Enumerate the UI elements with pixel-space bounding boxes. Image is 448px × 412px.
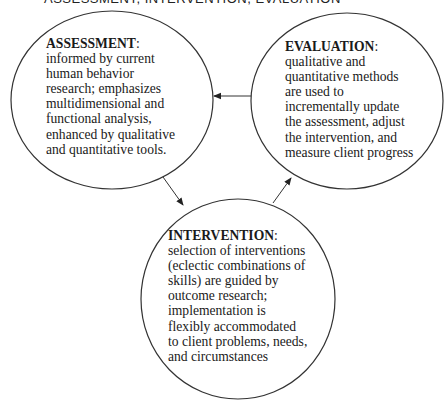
intervention-line: implementation is [168, 303, 307, 318]
assessment-line: and quantitative tools. [46, 142, 175, 157]
intervention-line: flexibly accommodated [168, 319, 307, 334]
intervention-line: skills) are guided by [168, 273, 307, 288]
evaluation-line: measure client progress [285, 145, 413, 160]
evaluation-title: EVALUATION [285, 39, 374, 54]
evaluation-line: qualitative and [285, 54, 413, 69]
assessment-line: enhanced by qualitative [46, 127, 175, 142]
intervention-line: outcome research; [168, 288, 307, 303]
evaluation-colon: : [374, 39, 378, 54]
evaluation-node: EVALUATION: qualitative and quantitative… [285, 39, 413, 160]
evaluation-heading: EVALUATION: [285, 39, 413, 54]
assessment-node: ASSESSMENT: informed by current human be… [46, 36, 175, 157]
intervention-line: (eclectic combinations of [168, 258, 307, 273]
assessment-line: informed by current [46, 51, 175, 66]
assessment-line: functional analysis, [46, 111, 175, 126]
evaluation-line: the intervention, and [285, 130, 413, 145]
intervention-line: to client problems, needs, [168, 334, 307, 349]
intervention-node: INTERVENTION: selection of interventions… [168, 228, 307, 364]
evaluation-line: quantitative methods [285, 69, 413, 84]
assessment-title: ASSESSMENT [46, 36, 136, 51]
assessment-colon: : [136, 36, 140, 51]
assessment-heading: ASSESSMENT: [46, 36, 175, 51]
intervention-heading: INTERVENTION: [168, 228, 307, 243]
intervention-colon: : [274, 228, 278, 243]
evaluation-line: incrementally update [285, 99, 413, 114]
assessment-line: multidimensional and [46, 96, 175, 111]
assessment-line: human behavior [46, 66, 175, 81]
arrow-intervention-to-evaluation [273, 178, 291, 203]
evaluation-line: the assessment, adjust [285, 114, 413, 129]
intervention-line: selection of interventions [168, 243, 307, 258]
intervention-title: INTERVENTION [168, 228, 274, 243]
arrow-assessment-to-intervention [163, 177, 183, 205]
intervention-line: and circumstances [168, 349, 307, 364]
assessment-line: research; emphasizes [46, 81, 175, 96]
evaluation-line: are used to [285, 84, 413, 99]
